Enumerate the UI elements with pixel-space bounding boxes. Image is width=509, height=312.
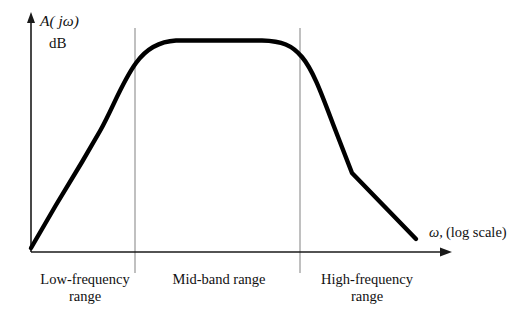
y-axis-unit-label: dB [49,35,67,53]
region-label-high-line2: range [321,288,413,305]
x-axis-omega-symbol: ω, [429,224,443,240]
region-label-mid-band: Mid-band range [172,271,265,288]
region-label-high-line1: High-frequency [321,271,413,287]
plot-canvas [0,0,509,312]
y-axis-arrowhead [27,12,35,23]
region-label-mid-line1: Mid-band range [172,271,265,287]
x-axis-arrowhead [440,248,452,257]
x-axis-label: ω,(log scale) [429,224,507,241]
y-axis-label: A( jω) [40,12,79,30]
region-label-low-line2: range [40,288,129,305]
region-label-high-frequency: High-frequency range [321,271,413,305]
region-label-low-frequency: Low-frequency range [40,271,129,305]
amplitude-response-figure: A( jω) dB ω,(log scale) Low-frequency ra… [0,0,509,312]
amplitude-response-curve [31,41,416,249]
x-axis-scale-note: (log scale) [446,224,507,240]
region-label-low-line1: Low-frequency [40,271,129,287]
